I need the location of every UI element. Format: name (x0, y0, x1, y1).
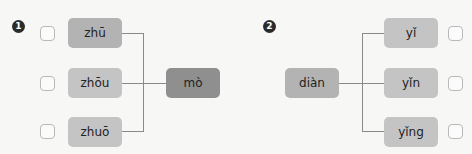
connector-line (122, 131, 144, 132)
connector-line (122, 83, 166, 84)
target-syllable-box: mò (166, 68, 220, 98)
option-checkbox[interactable] (40, 124, 55, 139)
connector-line (362, 33, 384, 34)
option-checkbox[interactable] (40, 26, 55, 41)
connector-line (362, 33, 363, 132)
exercise-number-badge: 1 (12, 20, 25, 33)
pinyin-option-box: yǐng (384, 117, 438, 147)
option-checkbox[interactable] (448, 76, 463, 91)
pinyin-option-box: zhuō (68, 117, 122, 147)
option-checkbox[interactable] (40, 76, 55, 91)
option-checkbox[interactable] (448, 26, 463, 41)
pinyin-option-box: yǐ (384, 18, 438, 48)
connector-line (122, 33, 144, 34)
pinyin-option-box: zhōu (68, 68, 122, 98)
option-checkbox[interactable] (448, 124, 463, 139)
connector-line (362, 131, 384, 132)
pinyin-option-box: yǐn (384, 68, 438, 98)
pinyin-option-box: zhū (68, 18, 122, 48)
source-syllable-box: diàn (285, 68, 339, 98)
connector-line (143, 33, 144, 132)
exercise-number-badge: 2 (263, 20, 276, 33)
